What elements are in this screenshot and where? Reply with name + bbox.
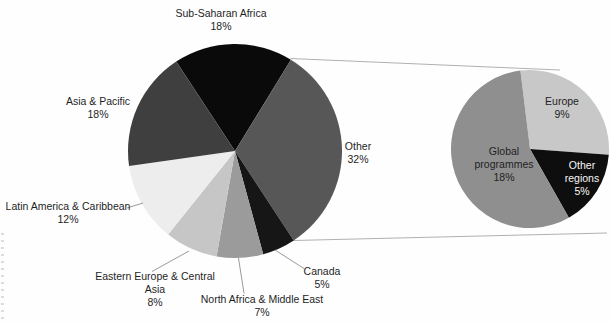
label-text: Europe (545, 95, 579, 108)
label-latin-america-caribbean: Latin America & Caribbean 12% (6, 200, 131, 226)
label-value: 9% (545, 108, 579, 121)
label-value: 12% (6, 213, 131, 226)
label-value: 5% (565, 185, 599, 198)
label-text: Eastern Europe & Central (95, 270, 215, 283)
breakout-connector-bottom (293, 233, 607, 241)
label-text: Canada (304, 265, 341, 278)
label-text: Asia & Pacific (66, 95, 130, 108)
main-pie (128, 44, 342, 258)
leader-line-north-africa (239, 258, 245, 294)
label-text: Global (475, 145, 534, 158)
label-canada: Canada 5% (304, 265, 341, 291)
breakout-connector-top (291, 59, 561, 71)
label-global-programmes: Global programmes 18% (475, 145, 534, 184)
label-text: North Africa & Middle East (201, 293, 324, 306)
label-text: Latin America & Caribbean (6, 200, 131, 213)
label-value: 18% (475, 171, 534, 184)
label-north-africa-middle-east: North Africa & Middle East 7% (201, 293, 324, 319)
label-other: Other 32% (345, 140, 371, 166)
label-eastern-europe-central-asia: Eastern Europe & Central Asia 8% (95, 270, 215, 309)
label-europe: Europe 9% (545, 95, 579, 121)
label-value: 18% (66, 108, 130, 121)
label-other-regions: Other regions 5% (565, 159, 599, 198)
label-value: 8% (95, 296, 215, 309)
label-value: 7% (201, 306, 324, 319)
pie-of-pie-figure: Sub-Saharan Africa 18% Asia & Pacific 18… (0, 0, 610, 322)
label-value: 32% (345, 153, 371, 166)
label-sub-saharan-africa: Sub-Saharan Africa 18% (175, 7, 266, 33)
label-text: Sub-Saharan Africa (175, 7, 266, 20)
leader-line-eastern-europe (152, 251, 189, 272)
label-text: Other (565, 159, 599, 172)
label-value: 18% (175, 20, 266, 33)
scan-edge-artifact (1, 233, 4, 320)
label-text: regions (565, 172, 599, 185)
label-text: Asia (95, 283, 215, 296)
leader-line-canada (275, 250, 304, 269)
label-text: programmes (475, 158, 534, 171)
label-asia-pacific: Asia & Pacific 18% (66, 95, 130, 121)
label-text: Other (345, 140, 371, 153)
label-value: 5% (304, 278, 341, 291)
